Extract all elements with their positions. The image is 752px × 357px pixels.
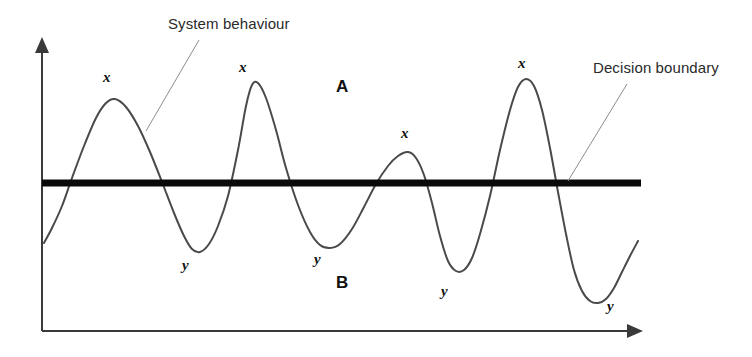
decision-boundary-leader-line xyxy=(568,84,627,181)
point-label-trough-4: y xyxy=(607,299,614,314)
y-axis-arrowhead xyxy=(35,37,49,53)
system-behaviour-curve xyxy=(44,79,638,303)
region-label-b: B xyxy=(336,274,348,291)
diagram-svg xyxy=(0,0,752,357)
x-axis-arrowhead xyxy=(627,324,643,338)
figure-canvas: System behaviour Decision boundary A B x… xyxy=(0,0,752,357)
point-label-peak-4: x xyxy=(518,56,526,71)
decision-boundary-label: Decision boundary xyxy=(593,60,719,75)
callout-leader-lines xyxy=(146,40,627,181)
point-label-trough-2: y xyxy=(314,252,321,267)
point-label-peak-2: x xyxy=(239,60,247,75)
point-label-peak-3: x xyxy=(401,126,409,141)
point-label-trough-3: y xyxy=(441,284,448,299)
system-behaviour-leader-line xyxy=(146,40,199,131)
region-label-a: A xyxy=(336,78,348,95)
system-behaviour-label: System behaviour xyxy=(168,16,290,31)
point-label-peak-1: x xyxy=(103,70,111,85)
x-axis xyxy=(42,324,643,338)
point-label-trough-1: y xyxy=(182,258,189,273)
